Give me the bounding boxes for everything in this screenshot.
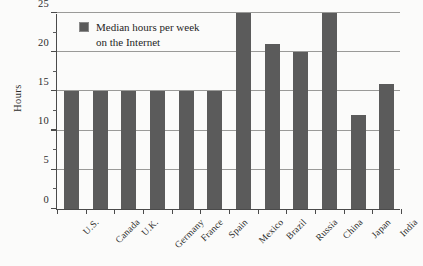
legend-label-line-2: on the Internet <box>96 35 200 50</box>
x-tick-label: China <box>341 217 365 241</box>
y-tick-mark <box>51 90 57 91</box>
x-tick-mark <box>114 209 115 214</box>
x-tick-mark <box>172 209 173 214</box>
gridline <box>57 130 400 131</box>
bar <box>179 91 194 209</box>
bar <box>93 91 108 209</box>
x-tick-mark <box>200 209 201 214</box>
gridline <box>57 51 400 52</box>
x-tick-label: India <box>398 217 420 239</box>
x-tick-label: U.S. <box>82 217 102 237</box>
y-tick-label: 10 <box>38 115 49 126</box>
y-axis-title: Hours <box>12 84 23 112</box>
x-tick-mark <box>372 209 373 214</box>
plot-area: 0510152025 U.S.CanadaU.K.GermanyFranceSp… <box>56 14 400 210</box>
bar <box>322 13 337 209</box>
y-tick-label: 25 <box>38 0 49 8</box>
y-minor-tick-mark <box>53 149 57 150</box>
y-tick-mark <box>51 51 57 52</box>
y-minor-tick-mark <box>53 71 57 72</box>
y-tick-mark <box>51 129 57 130</box>
chart-legend: Median hours per week on the Internet <box>79 20 200 50</box>
legend-swatch-icon <box>79 22 89 32</box>
x-tick-mark <box>143 209 144 214</box>
x-tick-label: Japan <box>370 217 393 240</box>
bar <box>351 115 366 209</box>
x-tick-mark <box>344 209 345 214</box>
x-tick-label: U.K. <box>139 217 160 238</box>
legend-label: Median hours per week on the Internet <box>96 20 200 50</box>
x-tick-mark <box>57 209 58 214</box>
y-tick-label: 20 <box>38 36 49 47</box>
gridline <box>57 169 400 170</box>
gridline <box>57 90 400 91</box>
y-tick-label: 5 <box>44 154 49 165</box>
x-tick-mark <box>86 209 87 214</box>
bar <box>236 13 251 209</box>
y-tick-mark <box>51 169 57 170</box>
x-tick-label: Brazil <box>284 217 308 241</box>
bar-chart-figure: Hours 0510152025 U.S.CanadaU.K.GermanyFr… <box>0 0 423 266</box>
bar <box>64 91 79 209</box>
y-minor-tick-mark <box>53 110 57 111</box>
y-minor-tick-mark <box>53 188 57 189</box>
gridline <box>57 12 400 13</box>
bar <box>265 44 280 209</box>
legend-label-line-1: Median hours per week <box>96 20 200 35</box>
y-minor-tick-mark <box>53 32 57 33</box>
x-tick-mark <box>401 209 402 214</box>
bar <box>293 52 308 209</box>
bar <box>207 91 222 209</box>
bar <box>150 91 165 209</box>
x-tick-label: Spain <box>226 217 249 240</box>
y-tick-mark <box>51 12 57 13</box>
x-tick-label: Mexico <box>257 217 285 245</box>
x-tick-label: Canada <box>114 217 142 245</box>
x-tick-mark <box>258 209 259 214</box>
x-tick-label: Russia <box>313 217 339 243</box>
x-tick-mark <box>286 209 287 214</box>
bar <box>379 84 394 209</box>
x-tick-mark <box>229 209 230 214</box>
y-tick-label: 15 <box>38 75 49 86</box>
x-tick-mark <box>315 209 316 214</box>
y-tick-label: 0 <box>44 193 49 204</box>
bar <box>121 91 136 209</box>
